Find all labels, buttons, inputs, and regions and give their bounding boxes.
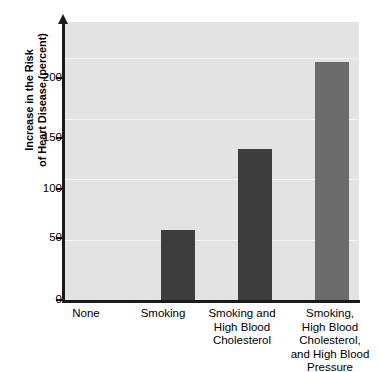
y-axis-title-line-2: of Heart Disease (percent): [36, 33, 50, 167]
x-label-line: Pressure: [282, 361, 378, 372]
x-label-line: None: [51, 307, 121, 321]
x-label-line: and High Blood: [282, 348, 378, 362]
y-tick-label-100: 100: [22, 182, 62, 194]
gridline-200: [65, 58, 359, 59]
plot-area: [65, 22, 359, 300]
y-tick-label-200: 200: [22, 71, 62, 83]
x-category-label-smoking-high-blood-cholesterol-and-high-blood-pressure: Smoking, High Blood Cholesterol, and Hig…: [282, 307, 378, 372]
y-tick-label-150: 150: [22, 131, 62, 143]
y-tick-label-50: 50: [22, 231, 62, 243]
x-category-label-smoking-and-high-blood-cholesterol: Smoking and High Blood Cholesterol: [201, 307, 283, 348]
x-axis-line: [62, 300, 360, 303]
x-label-line: Cholesterol: [201, 334, 283, 348]
y-axis-arrow-icon: [58, 14, 68, 24]
x-label-line: High Blood: [282, 321, 378, 335]
x-category-label-smoking: Smoking: [128, 307, 198, 321]
x-label-line: Cholesterol,: [282, 334, 378, 348]
y-tick-label-0: 0: [22, 293, 62, 305]
x-label-line: Smoking and: [201, 307, 283, 321]
x-label-line: Smoking,: [282, 307, 378, 321]
bar-chart-figure: Increase in the Risk of Heart Disease (p…: [0, 0, 381, 372]
x-category-label-none: None: [51, 307, 121, 321]
bar-smoking: [161, 230, 195, 300]
x-label-line: High Blood: [201, 321, 283, 335]
y-axis-line: [62, 22, 65, 301]
bar-smoking-high-blood-cholesterol-and-high-blood-pressure: [315, 62, 349, 300]
x-label-line: Smoking: [128, 307, 198, 321]
bar-smoking-and-high-blood-cholesterol: [238, 149, 272, 300]
